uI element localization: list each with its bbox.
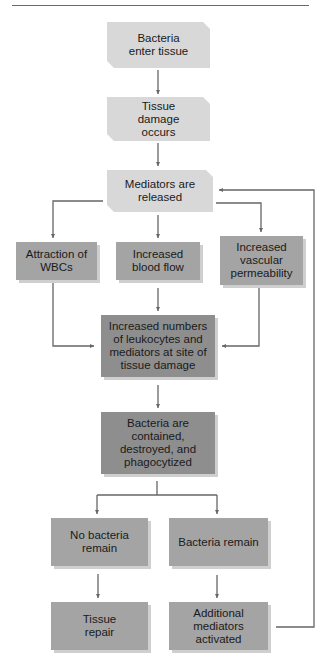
node-no-bacteria-remain: No bacteria remain [51, 518, 148, 566]
node-increased-permeability: Increased vascular permeability [220, 236, 303, 285]
node-tissue-damage: Tissue damage occurs [107, 97, 210, 141]
node-bacteria-remain: Bacteria remain [169, 518, 268, 566]
node-increased-blood-flow: Increased blood flow [116, 242, 200, 280]
node-tissue-repair: Tissue repair [51, 602, 148, 650]
node-additional-mediators: Additional mediators activated [169, 602, 268, 650]
node-increased-leukocytes: Increased numbers of leukocytes and medi… [101, 315, 215, 377]
node-bacteria-enter: Bacteria enter tissue [107, 22, 210, 68]
node-attraction-wbcs: Attraction of WBCs [16, 242, 97, 280]
node-bacteria-contained: Bacteria are contained, destroyed, and p… [101, 412, 215, 474]
node-mediators-released: Mediators are released [107, 170, 213, 212]
